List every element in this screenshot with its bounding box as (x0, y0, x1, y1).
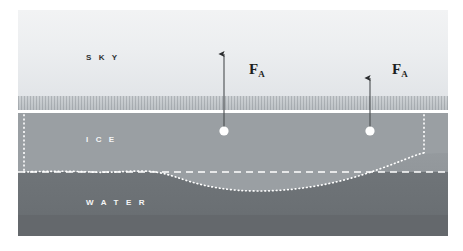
ice-label: I C E (86, 135, 117, 144)
diagram-canvas: S K Y I C E W A T E R FA FA (18, 10, 448, 236)
force-subscript-left: A (258, 69, 265, 79)
force-subscript-right: A (401, 69, 408, 79)
force-symbol-left: F (249, 61, 258, 77)
water-label: W A T E R (86, 198, 147, 207)
force-symbol-right: F (392, 61, 401, 77)
center-of-mass-dot-right (365, 126, 374, 135)
force-label-right: FA (392, 60, 408, 79)
center-of-mass-dot-left (219, 126, 228, 135)
force-arrows (18, 10, 448, 236)
force-label-left: FA (249, 60, 265, 79)
diagram-figure: S K Y I C E W A T E R FA FA (0, 0, 463, 251)
sky-label: S K Y (86, 53, 120, 62)
